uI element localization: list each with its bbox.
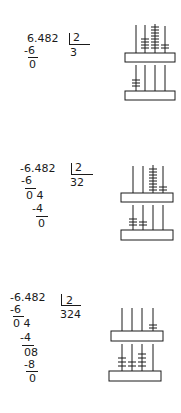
work-line-3: -4 bbox=[32, 203, 43, 214]
dividend: -6.482 bbox=[20, 163, 55, 174]
quotient: 32 bbox=[70, 177, 84, 188]
divisor: 2 bbox=[66, 295, 73, 306]
work-line-5: -8 bbox=[24, 359, 35, 370]
abacus-3 bbox=[108, 304, 168, 394]
work-line-2: 0 bbox=[29, 59, 36, 70]
divisor: 2 bbox=[75, 162, 82, 173]
dividend: -6.482 bbox=[10, 292, 45, 303]
division-step-1: 6.482 2 3 -6 0 bbox=[0, 0, 181, 130]
work-line-4: 0 bbox=[38, 218, 45, 229]
dividend: 6.482 bbox=[27, 33, 59, 44]
division-bracket-vertical bbox=[71, 163, 72, 174]
quotient: 3 bbox=[70, 47, 77, 58]
work-line-1: -6 bbox=[10, 304, 21, 315]
division-bracket-vertical bbox=[61, 294, 62, 305]
quotient: 324 bbox=[60, 309, 81, 320]
work-line-1: -6 bbox=[24, 45, 35, 56]
work-line-2: 0 4 bbox=[26, 190, 44, 201]
work-line-6: 0 bbox=[29, 373, 36, 384]
division-bracket-horizontal bbox=[69, 44, 90, 45]
division-bracket-vertical bbox=[69, 33, 70, 44]
division-bracket-horizontal bbox=[71, 174, 93, 175]
abacus-2 bbox=[120, 160, 180, 250]
work-line-4: 08 bbox=[24, 347, 38, 358]
division-step-3: -6.482 2 324 -6 0 4 -4 08 -8 0 bbox=[0, 270, 181, 413]
abacus-1 bbox=[122, 20, 181, 110]
division-step-2: -6.482 2 32 -6 0 4 -4 0 bbox=[0, 130, 181, 270]
divisor: 2 bbox=[73, 32, 80, 43]
work-line-3: -4 bbox=[20, 332, 31, 343]
work-line-1: -6 bbox=[21, 175, 32, 186]
work-line-2: 0 4 bbox=[13, 318, 31, 329]
